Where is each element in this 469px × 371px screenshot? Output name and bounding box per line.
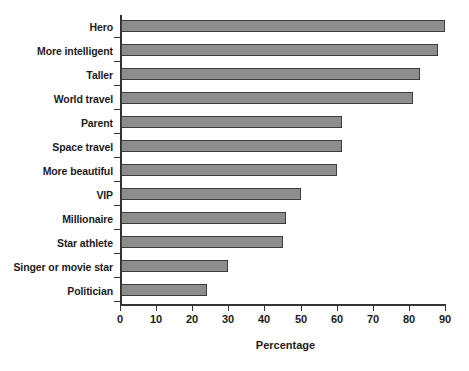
y-axis-tick [114,253,120,254]
y-axis-tick [114,109,120,110]
bar [121,284,207,296]
bar-row: Millionaire [0,207,469,231]
category-label: VIP [96,183,113,207]
y-axis-tick [114,37,120,38]
x-axis-tick [192,306,193,311]
y-axis-tick [114,157,120,158]
category-label: Singer or movie star [13,255,113,279]
bar-row: Hero [0,15,469,39]
bar [121,164,337,176]
category-label: Millionaire [62,207,113,231]
x-axis-tick-label: 30 [208,313,248,325]
bar [121,140,342,152]
y-axis-tick [114,277,120,278]
bar-row: Space travel [0,135,469,159]
x-axis-tick [445,306,446,311]
category-label: Space travel [52,135,113,159]
bar [121,44,438,56]
x-axis-tick [156,306,157,311]
bar-row: Taller [0,63,469,87]
bar [121,260,228,272]
x-axis-title-label: Percentage [256,339,315,351]
x-axis-tick-label: 0 [100,313,140,325]
category-label: More beautiful [43,159,113,183]
bar-row: Singer or movie star [0,255,469,279]
x-axis-tick-label: 90 [425,313,465,325]
category-label: Star athlete [57,231,113,255]
x-axis-tick [228,306,229,311]
y-axis-tick [114,205,120,206]
y-axis-tick [114,61,120,62]
x-axis-tick-label: 40 [244,313,284,325]
category-label: World travel [54,87,113,111]
x-axis-tick [301,306,302,311]
x-axis-tick-label: 50 [281,313,321,325]
bar-row: More intelligent [0,39,469,63]
bar [121,236,283,248]
x-axis-title: Percentage [0,339,469,351]
x-axis-tick-label: 20 [172,313,212,325]
category-label: Hero [89,15,113,39]
bar [121,20,445,32]
x-axis-tick-label: 70 [353,313,393,325]
category-label: Parent [81,111,113,135]
x-axis-tick-label: 80 [389,313,429,325]
bar [121,92,413,104]
bar [121,116,342,128]
x-axis-tick-label: 60 [317,313,357,325]
x-axis-tick [120,306,121,311]
x-axis-tick-label: 10 [136,313,176,325]
category-label: Politician [67,279,113,303]
bar-row: Star athlete [0,231,469,255]
bar-row: World travel [0,87,469,111]
y-axis-tick [114,181,120,182]
y-axis-tick [114,229,120,230]
bar-row: More beautiful [0,159,469,183]
x-axis-line [120,304,446,306]
y-axis-tick [114,133,120,134]
bar-row: Parent [0,111,469,135]
category-label: Taller [86,63,113,87]
bar [121,68,420,80]
x-axis-tick [409,306,410,311]
bar [121,188,301,200]
x-axis-tick [337,306,338,311]
bar-rows-container: HeroMore intelligentTallerWorld travelPa… [0,15,469,303]
bar-row: Politician [0,279,469,303]
bar [121,212,286,224]
x-axis-tick [264,306,265,311]
category-label: More intelligent [37,39,113,63]
x-axis-tick [373,306,374,311]
bar-chart-plot: HeroMore intelligentTallerWorld travelPa… [0,0,469,371]
bar-row: VIP [0,183,469,207]
chart-page: HeroMore intelligentTallerWorld travelPa… [0,0,469,371]
y-axis-tick [114,301,120,302]
y-axis-tick [114,85,120,86]
